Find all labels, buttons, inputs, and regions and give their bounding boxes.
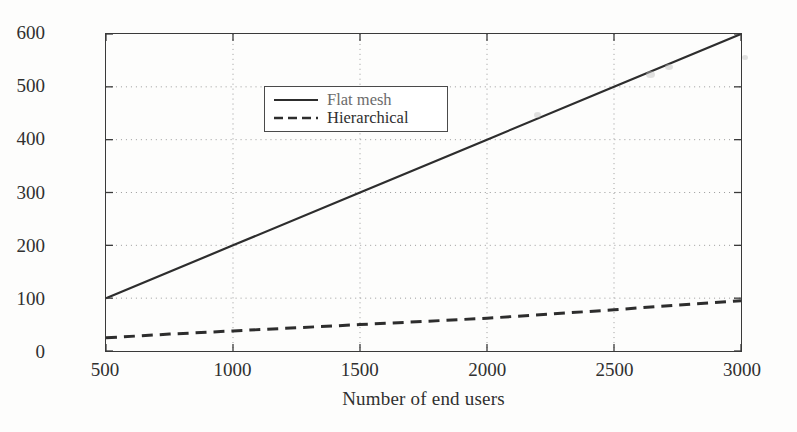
plot-area: Flat mesh Hierarchical xyxy=(105,33,742,352)
y-tick-label: 200 xyxy=(0,236,45,255)
y-tick-label: 600 xyxy=(0,23,45,42)
x-tick-label: 2500 xyxy=(570,360,660,379)
legend-label-flat-mesh: Flat mesh xyxy=(327,92,392,109)
x-tick-label: 500 xyxy=(60,360,150,379)
legend-item-flat-mesh: Flat mesh xyxy=(273,91,441,109)
y-tick-label: 100 xyxy=(0,289,45,308)
x-tick-label: 3000 xyxy=(697,360,787,379)
legend-solid-line-icon xyxy=(273,94,319,106)
x-tick-label: 1500 xyxy=(315,360,405,379)
legend-item-hierarchical: Hierarchical xyxy=(273,109,441,127)
figure-canvas: Routine table entries Number of end user… xyxy=(0,0,797,432)
x-axis-title: Number of end users xyxy=(105,388,742,410)
legend-box: Flat mesh Hierarchical xyxy=(264,86,448,132)
y-tick-label: 300 xyxy=(0,183,45,202)
x-tick-label: 1000 xyxy=(187,360,277,379)
legend-dashed-line-icon xyxy=(273,112,319,124)
y-tick-label: 0 xyxy=(0,342,45,361)
y-tick-label: 500 xyxy=(0,76,45,95)
x-tick-label: 2000 xyxy=(442,360,532,379)
scan-artifact xyxy=(742,55,748,60)
y-tick-label: 400 xyxy=(0,129,45,148)
legend-label-hierarchical: Hierarchical xyxy=(327,110,409,127)
axis-tick-marks xyxy=(106,34,741,351)
